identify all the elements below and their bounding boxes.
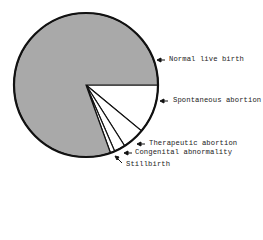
label-stillbirth: Stillbirth bbox=[126, 161, 170, 168]
arrow-icon-normal bbox=[157, 58, 165, 62]
label-therapeutic-abortion: Therapeutic abortion bbox=[149, 140, 237, 147]
arrow-icon-therapeutic bbox=[137, 142, 145, 146]
label-normal-live-birth: Normal live birth bbox=[169, 56, 244, 63]
arrow-icon-stillbirth bbox=[115, 156, 122, 163]
label-congenital-abnormality: Congenital abnormality bbox=[135, 149, 232, 156]
label-spontaneous-abortion: Spontaneous abortion bbox=[173, 97, 261, 104]
arrow-icon-congenital bbox=[124, 151, 132, 155]
arrow-icon-spontaneous bbox=[160, 99, 168, 103]
